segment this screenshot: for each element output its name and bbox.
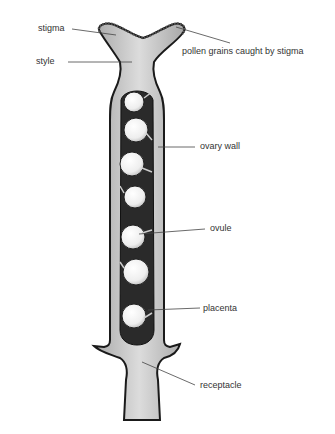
label-style: style [36,57,55,66]
label-ovule: ovule [210,224,232,233]
label-placenta: placenta [203,304,237,313]
label-pollen-grains: pollen grains caught by stigma [182,47,304,56]
label-ovary-wall: ovary wall [200,142,240,151]
label-stigma: stigma [38,24,65,33]
label-receptacle: receptacle [200,381,242,390]
